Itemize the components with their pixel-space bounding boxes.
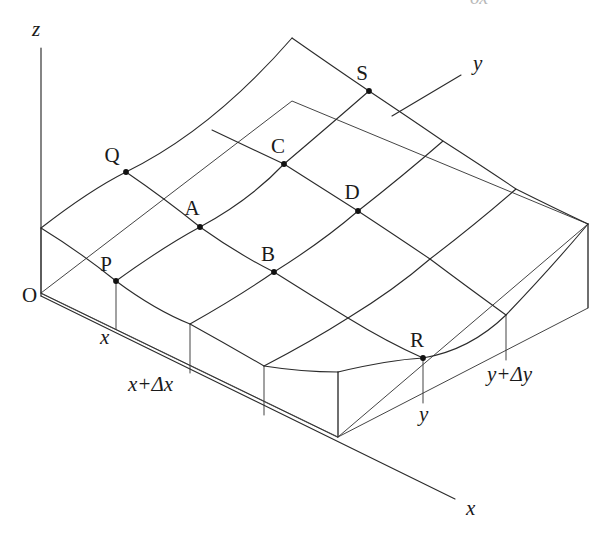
node-marker-R xyxy=(420,355,426,361)
node-label-R: R xyxy=(410,328,424,352)
node-marker-S xyxy=(366,88,372,94)
mesh-line-y-0 xyxy=(41,38,292,228)
mesh-line-y-3 xyxy=(264,189,516,366)
mesh-line-y-2 xyxy=(190,141,443,324)
base-slab xyxy=(41,101,588,437)
axis-y-label: y xyxy=(471,51,483,75)
node-marker-C xyxy=(281,161,287,167)
node-marker-P xyxy=(113,278,119,284)
node-label-Q: Q xyxy=(104,143,119,167)
surface-mesh-figure: z y x O P Q A B C D R S x x+Δx y y+Δy xyxy=(0,0,610,539)
clipped-top-text: δx xyxy=(470,0,488,8)
node-marker-B xyxy=(271,269,277,275)
axis-y: y xyxy=(392,51,483,116)
node-label-P: P xyxy=(100,252,112,276)
origin-label: O xyxy=(22,283,37,307)
wall-division-lines-right xyxy=(423,315,506,403)
mesh-line-x-2 xyxy=(212,130,506,315)
axis-y-line xyxy=(392,75,461,116)
base-top-face xyxy=(41,101,588,437)
mesh-line-y-1 xyxy=(116,91,369,281)
axis-x-label: x xyxy=(465,496,476,520)
node-label-D: D xyxy=(344,180,359,204)
tick-label-y-plus-dy: y+Δy xyxy=(485,362,533,386)
node-marker-Q xyxy=(123,169,129,175)
node-label-C: C xyxy=(271,134,285,158)
tick-label-x: x xyxy=(99,325,110,349)
node-marker-A xyxy=(197,224,203,230)
axis-z-label: z xyxy=(31,17,40,41)
tick-label-y: y xyxy=(417,402,429,426)
mesh-node-labels: P Q A B C D R S xyxy=(100,61,424,352)
node-label-S: S xyxy=(356,61,368,85)
axis-z: z xyxy=(31,17,41,296)
tick-label-x-plus-dx: x+Δx xyxy=(127,372,174,396)
base-tick-labels: x x+Δx y y+Δy xyxy=(99,325,533,426)
node-label-B: B xyxy=(261,242,275,266)
mesh-line-x-3 xyxy=(292,38,588,224)
node-label-A: A xyxy=(184,196,200,220)
node-marker-D xyxy=(355,208,361,214)
mesh-line-y-4 xyxy=(338,224,588,372)
